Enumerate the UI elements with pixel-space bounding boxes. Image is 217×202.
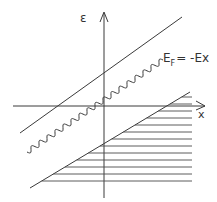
upper-band-edge-line bbox=[20, 17, 182, 133]
band-diagram: ε x EF= -Ex bbox=[0, 0, 217, 202]
fermi-level-symbol: E bbox=[163, 51, 171, 65]
fermi-level-equation: = -Ex bbox=[176, 51, 209, 65]
x-axis-label: x bbox=[198, 108, 205, 121]
fermi-level-label: EF= -Ex bbox=[163, 51, 209, 68]
filled-states-hatching bbox=[42, 97, 192, 181]
fermi-level-subscript: F bbox=[171, 59, 176, 68]
energy-axis-label: ε bbox=[80, 11, 87, 25]
